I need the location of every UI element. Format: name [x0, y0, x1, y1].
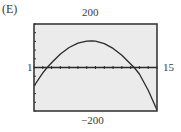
graph-screen [0, 0, 181, 132]
